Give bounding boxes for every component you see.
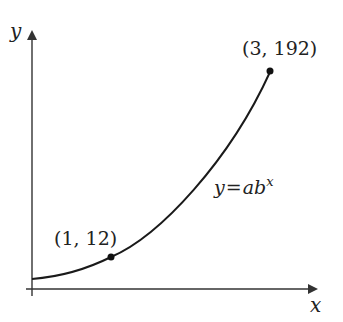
equation-label: y=abx [213, 174, 274, 198]
point-1-12 [108, 254, 115, 261]
y-axis-label: y [9, 19, 22, 43]
point-label-3-192: (3, 192) [242, 37, 317, 59]
point-3-192 [267, 68, 274, 75]
point-label-1-12: (1, 12) [54, 227, 117, 249]
x-axis-label: x [310, 293, 321, 317]
exponential-graph: y x (1, 12) (3, 192) y=abx [0, 0, 343, 322]
